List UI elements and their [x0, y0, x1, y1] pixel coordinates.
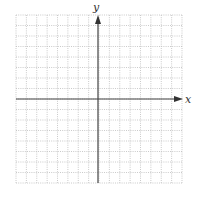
- x-axis-label: x: [185, 93, 192, 106]
- y-axis-label: y: [92, 1, 100, 14]
- coordinate-grid-chart: x y: [0, 0, 199, 197]
